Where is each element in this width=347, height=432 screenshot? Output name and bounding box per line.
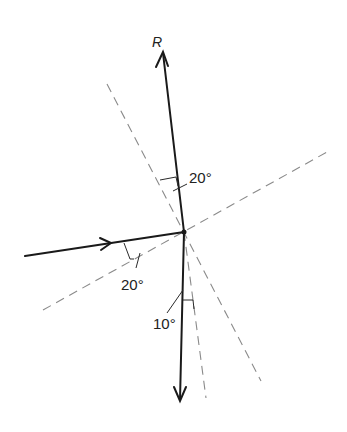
incoming-line	[25, 232, 184, 256]
angle-marker-lower	[183, 300, 194, 309]
force-label-r: R	[152, 34, 162, 50]
angle-label-lower: 10°	[153, 315, 176, 332]
angle-leader-incoming	[136, 253, 140, 268]
arrowhead-up-icon	[156, 52, 168, 67]
intersection-point	[182, 230, 187, 235]
dashed-line-near-vertical	[184, 232, 206, 398]
angle-label-incoming: 20°	[121, 276, 144, 293]
angle-marker-incoming	[124, 243, 134, 259]
force-diagram: 20° 20° 10° R	[0, 0, 347, 432]
angle-label-upper: 20°	[189, 169, 212, 186]
angle-leader-lower	[167, 290, 183, 313]
outgoing-line-down	[180, 232, 184, 400]
resultant-line-up	[163, 53, 184, 232]
angle-marker-upper	[160, 177, 178, 186]
